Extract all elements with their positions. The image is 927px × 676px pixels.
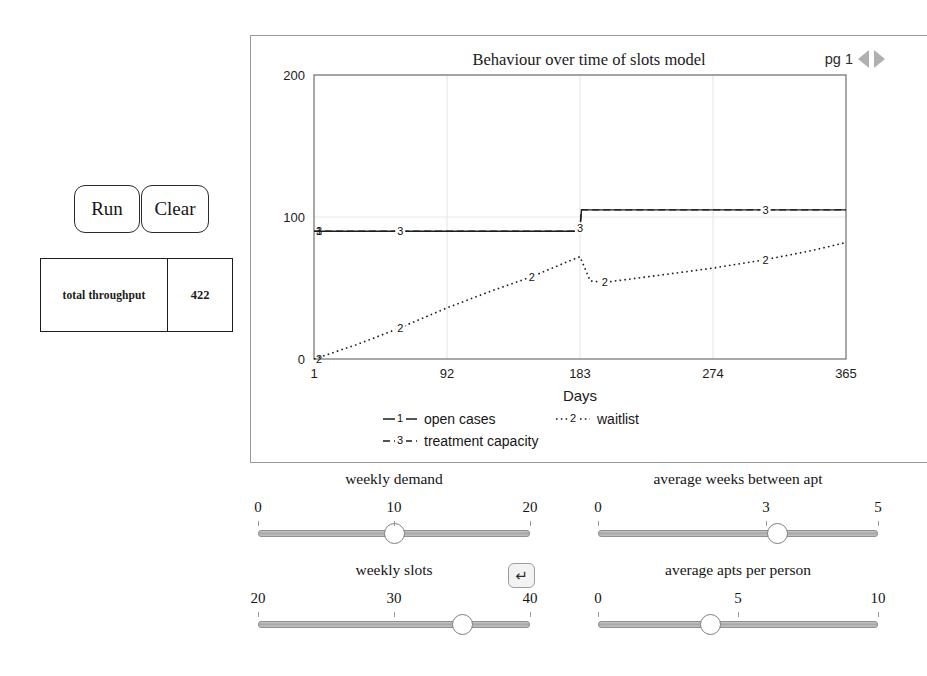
svg-text:2: 2 — [529, 271, 535, 283]
slider-tick-mark — [258, 612, 259, 617]
slider-tick-mark — [598, 612, 599, 617]
slider-title: average weeks between apt — [598, 470, 878, 488]
slider-track[interactable] — [598, 612, 878, 634]
svg-text:2: 2 — [763, 254, 769, 266]
slider-tick-mark — [878, 521, 879, 526]
svg-text:2: 2 — [602, 276, 608, 288]
slider-track[interactable] — [598, 521, 878, 543]
svg-text:100: 100 — [283, 210, 305, 225]
slider-track[interactable] — [258, 521, 530, 543]
slider-tick-label: 40 — [523, 590, 538, 607]
slider-ticklabels: 01020 — [258, 499, 530, 519]
slider-group-weekly-demand: weekly demand 01020 — [258, 470, 530, 543]
slider-rail[interactable] — [258, 621, 530, 628]
control-button-group: Run Clear — [74, 185, 209, 233]
slider-group-weekly-slots: weekly slots 203040 — [258, 561, 530, 634]
slider-ticklabels: 203040 — [258, 590, 530, 610]
slider-tick-mark — [394, 612, 395, 617]
slider-title: weekly demand — [258, 470, 530, 488]
svg-text:1: 1 — [397, 412, 403, 424]
svg-text:3: 3 — [316, 225, 322, 237]
chart-panel: Behaviour over time of slots model pg 1 … — [250, 35, 927, 463]
slider-rail[interactable] — [598, 530, 878, 537]
svg-text:3: 3 — [397, 434, 403, 446]
slider-tick-label: 0 — [594, 590, 602, 607]
svg-text:2: 2 — [397, 322, 403, 334]
svg-text:treatment capacity: treatment capacity — [424, 433, 538, 449]
behaviour-over-time-plot: 0100200192183274365Days11112222233331ope… — [251, 36, 927, 464]
svg-text:waitlist: waitlist — [596, 411, 639, 427]
slider-ticklabels: 035 — [598, 499, 878, 519]
svg-text:open cases: open cases — [424, 411, 496, 427]
svg-text:3: 3 — [763, 204, 769, 216]
slider-tick-mark — [738, 612, 739, 617]
slider-tick-label: 30 — [387, 590, 402, 607]
slider-tick-mark — [258, 521, 259, 526]
slider-tick-mark — [598, 521, 599, 526]
svg-text:183: 183 — [569, 366, 591, 381]
svg-text:2: 2 — [570, 412, 576, 424]
svg-text:274: 274 — [702, 366, 724, 381]
slider-tick-label: 3 — [762, 499, 770, 516]
svg-text:365: 365 — [835, 366, 857, 381]
slider-tick-label: 0 — [254, 499, 262, 516]
clear-button[interactable]: Clear — [141, 185, 209, 233]
total-throughput-label: total throughput — [41, 259, 168, 331]
slider-tick-label: 10 — [871, 590, 886, 607]
svg-text:0: 0 — [298, 352, 305, 367]
svg-text:3: 3 — [577, 222, 583, 234]
svg-text:92: 92 — [440, 366, 454, 381]
slider-tick-mark — [530, 612, 531, 617]
total-throughput-table: total throughput 422 — [40, 258, 233, 332]
slider-group-average-apts-per-person: average apts per person 0510 — [598, 561, 878, 634]
svg-text:1: 1 — [310, 366, 317, 381]
svg-text:2: 2 — [316, 353, 322, 365]
slider-title: weekly slots — [258, 561, 530, 579]
slider-tick-label: 5 — [874, 499, 882, 516]
slider-track[interactable] — [258, 612, 530, 634]
slider-tick-label: 0 — [594, 499, 602, 516]
slider-handle[interactable] — [384, 523, 405, 544]
slider-tick-mark — [530, 521, 531, 526]
slider-tick-label: 20 — [251, 590, 266, 607]
slider-tick-mark — [878, 612, 879, 617]
slider-handle[interactable] — [452, 614, 473, 635]
slider-tick-label: 10 — [387, 499, 402, 516]
slider-group-average-weeks-between-apt: average weeks between apt 035 — [598, 470, 878, 543]
slider-rail[interactable] — [598, 621, 878, 628]
reset-button[interactable]: ↵ — [508, 563, 535, 588]
total-throughput-value: 422 — [168, 259, 232, 331]
slider-handle[interactable] — [700, 614, 721, 635]
slider-handle[interactable] — [767, 523, 788, 544]
slider-title: average apts per person — [598, 561, 878, 579]
svg-text:3: 3 — [397, 225, 403, 237]
slider-tick-label: 20 — [523, 499, 538, 516]
run-button[interactable]: Run — [74, 185, 140, 233]
slider-ticklabels: 0510 — [598, 590, 878, 610]
slider-tick-mark — [766, 521, 767, 526]
svg-text:200: 200 — [283, 68, 305, 83]
slider-tick-label: 5 — [734, 590, 742, 607]
slider-tick-mark — [394, 521, 395, 526]
svg-text:Days: Days — [563, 387, 597, 404]
